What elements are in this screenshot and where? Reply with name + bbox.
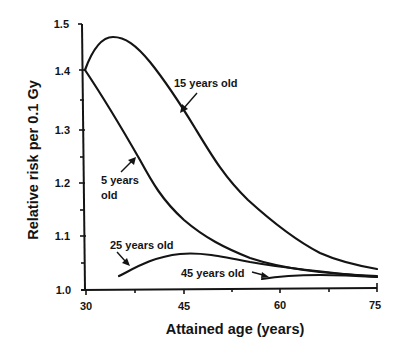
annotation-15-years-old: 15 years old [174, 77, 238, 113]
curve-45-years-old [262, 275, 377, 279]
y-tick-label: 1.4 [55, 65, 71, 77]
curve-15-years-old [85, 37, 377, 269]
y-axis-title: Relative risk per 0.1 Gy [25, 80, 41, 240]
arrow-icon [184, 93, 197, 108]
x-tick-label: 75 [369, 299, 381, 311]
arrowhead-icon [261, 272, 269, 278]
arrow-icon [121, 161, 132, 172]
y-tick-label: 1.2 [55, 177, 70, 189]
x-axis [81, 283, 377, 295]
y-tick-label: 1.0 [56, 284, 71, 296]
x-tick-label: 45 [178, 300, 190, 312]
arrow-icon [252, 272, 263, 275]
y-axis [78, 24, 86, 290]
y-tick-label: 1.3 [55, 124, 70, 136]
annotation-label: 25 years old [110, 239, 174, 251]
annotation-25-years-old: 25 years old [110, 239, 174, 266]
annotation-45-years-old: 45 years old [181, 267, 269, 279]
x-tick-labels: 30 45 60 75 [80, 299, 381, 312]
annotation-label: 5 years [101, 174, 139, 186]
x-tick-label: 60 [274, 299, 286, 311]
y-tick-label: 1.1 [55, 230, 70, 242]
annotation-label: 15 years old [174, 77, 238, 89]
x-tick-label: 30 [80, 300, 92, 312]
chart: 1.5 1.4 1.3 1.2 1.1 1.0 30 45 60 75 Atta… [0, 0, 404, 362]
x-axis-title: Attained age (years) [166, 321, 305, 337]
annotation-label: 45 years old [181, 267, 245, 279]
y-tick-label: 1.5 [54, 18, 69, 30]
y-tick-labels: 1.5 1.4 1.3 1.2 1.1 1.0 [54, 18, 71, 296]
annotation-label: old [101, 189, 118, 201]
annotation-5-years-old: 5 years old [101, 157, 139, 201]
